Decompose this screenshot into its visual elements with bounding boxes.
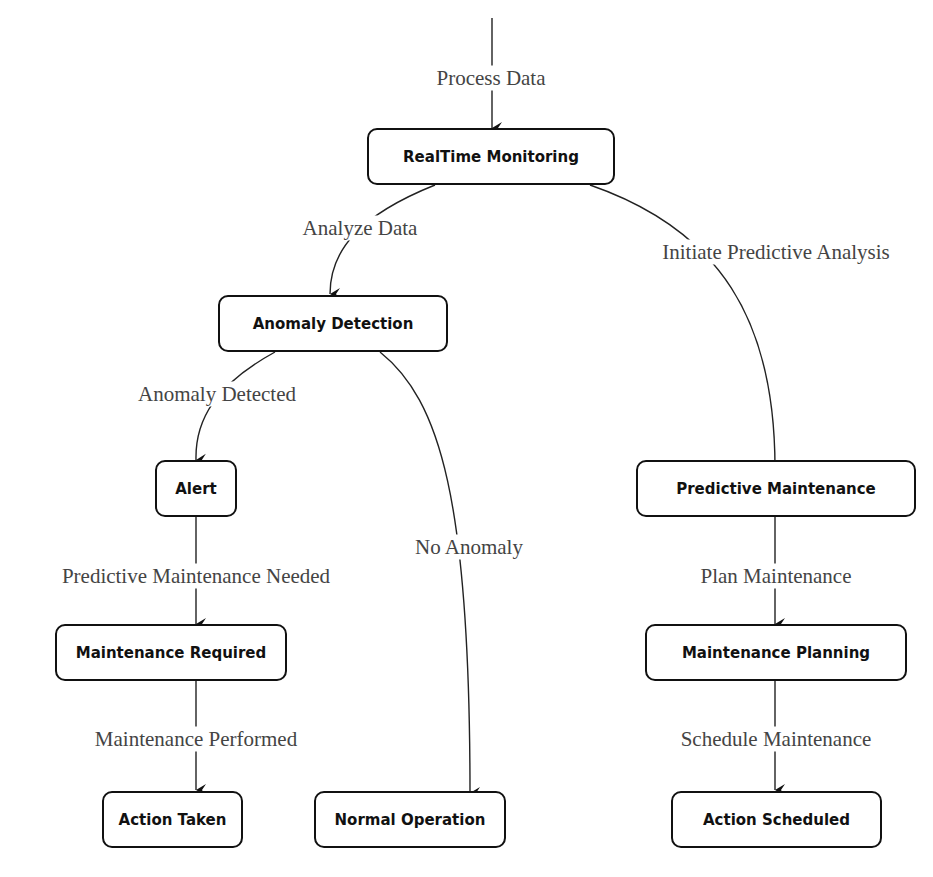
- edge-initiate-predictive-analysis: [590, 185, 775, 468]
- node-label: Anomaly Detection: [253, 315, 414, 333]
- node-label: Action Taken: [119, 811, 227, 829]
- edge-label-schedule-maintenance: Schedule Maintenance: [678, 727, 875, 752]
- edge-no-anomaly: [380, 352, 470, 793]
- node-label: Maintenance Required: [76, 644, 267, 662]
- node-label: RealTime Monitoring: [403, 148, 579, 166]
- node-maintenance-required: Maintenance Required: [55, 624, 287, 681]
- node-maintenance-planning: Maintenance Planning: [645, 624, 907, 681]
- edge-label-process-data: Process Data: [433, 66, 548, 91]
- edge-label-no-anomaly: No Anomaly: [412, 535, 526, 560]
- node-normal-operation: Normal Operation: [314, 791, 506, 848]
- node-action-scheduled: Action Scheduled: [671, 791, 882, 848]
- node-label: Alert: [175, 480, 217, 498]
- node-label: Predictive Maintenance: [676, 480, 876, 498]
- node-realtime-monitoring: RealTime Monitoring: [367, 128, 615, 185]
- node-predictive-maintenance: Predictive Maintenance: [636, 460, 916, 517]
- edge-label-initiate-predictive-analysis: Initiate Predictive Analysis: [659, 240, 892, 265]
- node-anomaly-detection: Anomaly Detection: [218, 295, 448, 352]
- edge-label-analyze-data: Analyze Data: [300, 216, 421, 241]
- edge-label-plan-maintenance: Plan Maintenance: [697, 564, 854, 589]
- node-action-taken: Action Taken: [102, 791, 243, 848]
- edge-label-maintenance-performed: Maintenance Performed: [92, 727, 300, 752]
- node-label: Maintenance Planning: [682, 644, 870, 662]
- edge-label-anomaly-detected: Anomaly Detected: [135, 382, 299, 407]
- node-label: Normal Operation: [335, 811, 486, 829]
- edge-label-predictive-maintenance-needed: Predictive Maintenance Needed: [59, 564, 333, 589]
- node-label: Action Scheduled: [703, 811, 850, 829]
- node-alert: Alert: [155, 460, 237, 517]
